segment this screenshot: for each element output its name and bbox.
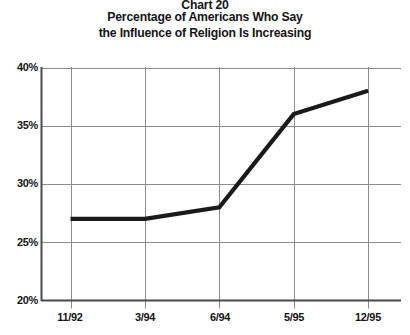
x-tick-label-3: 6/94 (187, 311, 254, 323)
x-tick-label-4: 5/95 (261, 311, 328, 323)
y-tick-label-40: 40% (2, 61, 38, 73)
y-tick-label-30: 30% (2, 177, 38, 189)
x-tick-label-5: 12/95 (335, 311, 402, 323)
y-tick-label-25: 25% (2, 236, 38, 248)
y-tick-label-20: 20% (2, 294, 38, 306)
line-chart-svg (0, 0, 410, 335)
chart-plot-area: 40% 35% 30% 25% 20% 11/92 3/94 6/94 5/95… (0, 0, 410, 335)
x-tick-label-1: 11/92 (37, 311, 104, 323)
x-tick-label-2: 3/94 (112, 311, 179, 323)
y-tick-label-35: 35% (2, 119, 38, 131)
horizontal-gridlines (41, 69, 401, 243)
